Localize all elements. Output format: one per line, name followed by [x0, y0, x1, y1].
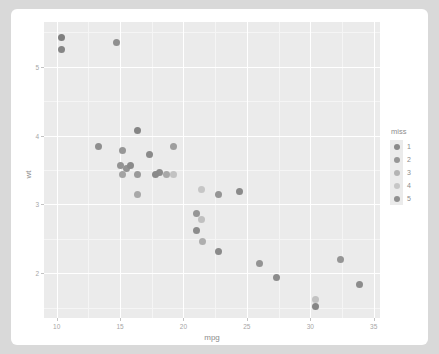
- y-tick-mark: [41, 136, 44, 137]
- legend-items: 12345: [390, 140, 432, 205]
- legend: miss 12345: [390, 127, 432, 205]
- y-tick-mark: [41, 204, 44, 205]
- legend-dot-icon: [394, 157, 400, 163]
- data-point: [117, 162, 124, 169]
- data-point: [134, 127, 141, 134]
- legend-item: 1: [390, 140, 432, 153]
- legend-item: 2: [390, 153, 432, 166]
- legend-item: 4: [390, 179, 432, 192]
- x-tick-label: 35: [370, 323, 377, 330]
- legend-item: 3: [390, 166, 432, 179]
- data-point: [199, 238, 206, 245]
- x-tick-mark: [57, 318, 58, 321]
- legend-dot-icon: [394, 170, 400, 176]
- x-tick-mark: [120, 318, 121, 321]
- data-point: [152, 171, 159, 178]
- data-point: [134, 171, 141, 178]
- data-point: [236, 188, 243, 195]
- legend-item: 5: [390, 192, 432, 205]
- data-point: [193, 227, 200, 234]
- legend-item-label: 3: [407, 169, 411, 176]
- x-tick-label: 25: [243, 323, 250, 330]
- legend-key-swatch: [390, 192, 403, 205]
- legend-item-label: 1: [407, 143, 411, 150]
- data-point: [273, 274, 280, 281]
- grid-minor-horizontal: [44, 239, 380, 240]
- data-point: [119, 147, 126, 154]
- x-tick-mark: [374, 318, 375, 321]
- plot-card: 101520253035 2345 mpg wt miss 12345: [11, 9, 428, 345]
- legend-item-label: 2: [407, 156, 411, 163]
- data-point: [337, 256, 344, 263]
- legend-dot-icon: [394, 144, 400, 150]
- x-axis-title: mpg: [44, 333, 380, 342]
- data-point: [58, 34, 65, 41]
- data-point: [95, 143, 102, 150]
- y-tick-label: 4: [22, 132, 39, 139]
- legend-item-label: 5: [407, 195, 411, 202]
- legend-dot-icon: [394, 196, 400, 202]
- grid-minor-horizontal: [44, 32, 380, 33]
- data-point: [312, 303, 319, 310]
- x-tick-label: 10: [53, 323, 60, 330]
- data-point: [312, 296, 319, 303]
- data-point: [198, 216, 205, 223]
- legend-key-swatch: [390, 153, 403, 166]
- legend-key-swatch: [390, 166, 403, 179]
- x-tick-mark: [310, 318, 311, 321]
- x-tick-label: 15: [116, 323, 123, 330]
- data-point: [256, 260, 263, 267]
- y-tick-label: 5: [22, 63, 39, 70]
- data-point: [127, 162, 134, 169]
- x-tick-label: 20: [180, 323, 187, 330]
- grid-minor-horizontal: [44, 170, 380, 171]
- legend-dot-icon: [394, 183, 400, 189]
- grid-minor-horizontal: [44, 308, 380, 309]
- y-axis-title: wt: [24, 145, 33, 205]
- data-point: [146, 151, 153, 158]
- plot-panel: [44, 22, 380, 318]
- data-point: [119, 171, 126, 178]
- grid-major-horizontal: [44, 204, 380, 205]
- scatter-plot: 101520253035 2345 mpg wt miss 12345: [11, 9, 428, 345]
- grid-minor-horizontal: [44, 101, 380, 102]
- data-point: [193, 210, 200, 217]
- data-point: [356, 281, 363, 288]
- data-point: [113, 39, 120, 46]
- data-point: [215, 248, 222, 255]
- x-tick-label: 30: [307, 323, 314, 330]
- y-tick-mark: [41, 67, 44, 68]
- x-tick-mark: [183, 318, 184, 321]
- legend-key-swatch: [390, 179, 403, 192]
- data-point: [134, 191, 141, 198]
- grid-major-horizontal: [44, 136, 380, 137]
- data-point: [215, 191, 222, 198]
- y-tick-mark: [41, 273, 44, 274]
- y-tick-label: 2: [22, 270, 39, 277]
- x-tick-mark: [247, 318, 248, 321]
- data-point: [170, 171, 177, 178]
- data-point: [198, 186, 205, 193]
- legend-item-label: 4: [407, 182, 411, 189]
- grid-major-horizontal: [44, 67, 380, 68]
- grid-major-horizontal: [44, 273, 380, 274]
- legend-title: miss: [390, 127, 432, 136]
- data-point: [58, 46, 65, 53]
- data-point: [170, 143, 177, 150]
- legend-key-swatch: [390, 140, 403, 153]
